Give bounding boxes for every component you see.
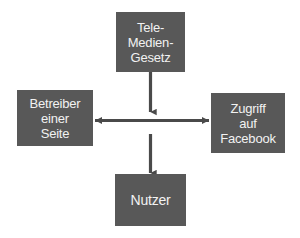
node-nutzer[interactable]: Nutzer (115, 174, 186, 226)
node-label-line: auf (239, 116, 256, 131)
node-label-line: Facebook (220, 131, 276, 146)
node-tele-medien-gesetz[interactable]: Tele- Medien- Gesetz (116, 12, 185, 72)
node-label-line: Nutzer (130, 193, 170, 208)
node-label-line: Gesetz (131, 50, 171, 65)
node-label-line: einer (41, 111, 69, 126)
node-label-line: Zugriff (230, 101, 265, 116)
node-label-line: Medien- (128, 35, 174, 50)
node-label-line: Seite (41, 126, 70, 141)
node-label-line: Tele- (137, 20, 164, 35)
node-zugriff-auf-facebook[interactable]: Zugriff auf Facebook (211, 93, 285, 153)
diagram-canvas: Tele- Medien- Gesetz Betreiber einer Sei… (0, 0, 300, 238)
node-label-line: Betreiber (30, 96, 81, 111)
node-betreiber-einer-seite[interactable]: Betreiber einer Seite (17, 90, 93, 146)
